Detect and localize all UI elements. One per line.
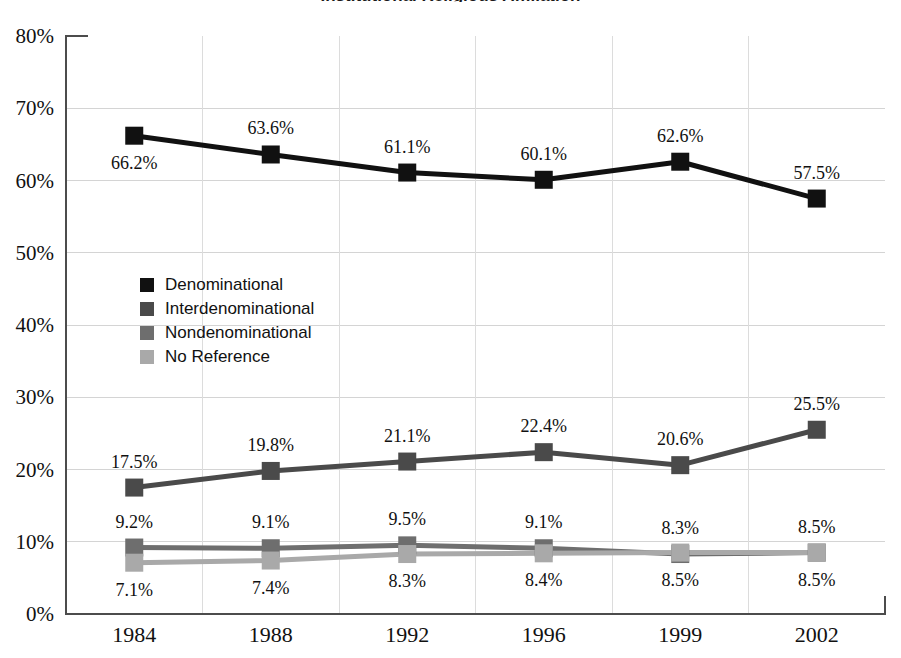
data-point-label: 25.5% bbox=[794, 394, 841, 414]
chart-container: Institutional Religious Affiliation 0%10… bbox=[0, 0, 901, 658]
data-point-label: 20.6% bbox=[657, 429, 704, 449]
y-tick-label: 80% bbox=[16, 24, 55, 48]
x-tick-label: 1996 bbox=[522, 622, 566, 647]
legend-label: Nondenominational bbox=[165, 323, 312, 342]
legend-label: No Reference bbox=[165, 347, 270, 366]
data-point-label: 21.1% bbox=[384, 426, 431, 446]
x-axis-tick-labels: 198419881992199619992002 bbox=[112, 622, 839, 647]
x-tick-label: 1999 bbox=[658, 622, 702, 647]
data-point-label: 7.4% bbox=[252, 578, 290, 598]
data-point-marker bbox=[125, 127, 143, 145]
data-point-marker bbox=[398, 164, 416, 182]
data-point-marker bbox=[671, 544, 689, 562]
data-point-label: 8.3% bbox=[389, 571, 427, 591]
x-tick-label: 1992 bbox=[385, 622, 429, 647]
legend-label: Interdenominational bbox=[165, 299, 314, 318]
data-point-marker bbox=[262, 462, 280, 480]
data-point-label: 9.1% bbox=[252, 512, 290, 532]
data-point-marker bbox=[808, 544, 826, 562]
line-chart-plot: 0%10%20%30%40%50%60%70%80% 1984198819921… bbox=[0, 0, 901, 658]
data-point-marker bbox=[535, 171, 553, 189]
data-point-label: 17.5% bbox=[111, 452, 158, 472]
data-point-label: 61.1% bbox=[384, 137, 431, 157]
y-tick-label: 70% bbox=[16, 96, 55, 120]
y-tick-label: 0% bbox=[26, 602, 54, 626]
x-tick-label: 1984 bbox=[112, 622, 156, 647]
data-point-label: 9.5% bbox=[389, 509, 427, 529]
data-point-marker bbox=[398, 545, 416, 563]
y-tick-label: 30% bbox=[16, 385, 55, 409]
legend-label: Denominational bbox=[165, 275, 283, 294]
data-point-marker bbox=[398, 453, 416, 471]
legend-swatch bbox=[140, 302, 154, 316]
data-point-label: 19.8% bbox=[248, 435, 295, 455]
data-point-marker bbox=[262, 552, 280, 570]
data-point-marker bbox=[671, 456, 689, 474]
data-point-marker bbox=[535, 443, 553, 461]
data-point-label: 8.5% bbox=[662, 570, 700, 590]
data-point-marker bbox=[125, 479, 143, 497]
legend-swatch bbox=[140, 350, 154, 364]
data-point-marker bbox=[808, 421, 826, 439]
y-tick-label: 50% bbox=[16, 241, 55, 265]
data-point-label: 7.1% bbox=[116, 580, 154, 600]
data-point-label: 62.6% bbox=[657, 126, 704, 146]
legend-swatch bbox=[140, 326, 154, 340]
y-tick-label: 10% bbox=[16, 530, 55, 554]
data-point-label: 60.1% bbox=[521, 144, 568, 164]
data-point-label: 9.2% bbox=[116, 512, 154, 532]
data-point-label: 57.5% bbox=[794, 163, 841, 183]
legend-swatch bbox=[140, 278, 154, 292]
data-point-label: 8.3% bbox=[662, 518, 700, 538]
y-tick-label: 60% bbox=[16, 169, 55, 193]
y-axis-tick-labels: 0%10%20%30%40%50%60%70%80% bbox=[16, 24, 55, 626]
data-point-label: 9.1% bbox=[525, 512, 563, 532]
data-point-label: 8.5% bbox=[798, 517, 836, 537]
data-point-marker bbox=[535, 544, 553, 562]
data-point-marker bbox=[125, 554, 143, 572]
data-point-label: 63.6% bbox=[248, 118, 295, 138]
data-point-label: 22.4% bbox=[521, 416, 568, 436]
data-point-label: 8.4% bbox=[525, 570, 563, 590]
data-point-marker bbox=[808, 190, 826, 208]
data-point-label: 8.5% bbox=[798, 570, 836, 590]
y-tick-label: 20% bbox=[16, 458, 55, 482]
data-point-label: 66.2% bbox=[111, 153, 158, 173]
x-tick-label: 2002 bbox=[795, 622, 839, 647]
x-tick-label: 1988 bbox=[249, 622, 293, 647]
y-tick-label: 40% bbox=[16, 313, 55, 337]
chart-legend: DenominationalInterdenominationalNondeno… bbox=[140, 275, 314, 366]
data-point-marker bbox=[671, 153, 689, 171]
data-point-marker bbox=[262, 145, 280, 163]
